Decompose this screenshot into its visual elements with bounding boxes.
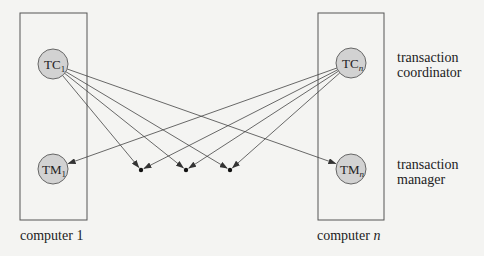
node-tmn-sub: n — [360, 169, 365, 179]
node-tm1: TM1 — [38, 154, 68, 184]
site-dot-site-a — [139, 168, 143, 172]
transaction-manager-label: transaction manager — [397, 157, 458, 187]
node-tcn-main: TC — [342, 56, 359, 71]
manager-label-line1: transaction — [397, 157, 458, 172]
site-dot-site-b — [184, 168, 188, 172]
computer-n-label: computer n — [317, 228, 380, 244]
transaction-system-diagram: TC1 TM1 TCn TMn — [0, 0, 484, 256]
node-tc1-main: TC — [44, 57, 61, 72]
coordinator-label-line1: transaction — [397, 50, 462, 65]
edge-tc1-to-site-b — [65, 73, 184, 168]
computer-1-label-prefix: computer — [20, 228, 76, 243]
node-tm1-sub: 1 — [62, 169, 67, 179]
transaction-coordinator-label: transaction coordinator — [397, 50, 462, 80]
edge-tc1-to-site-c — [66, 72, 227, 169]
node-tc1: TC1 — [38, 49, 68, 79]
node-tcn-sub: n — [359, 63, 364, 73]
node-tm1-main: TM — [42, 162, 62, 177]
node-tmn: TMn — [336, 154, 366, 184]
computer-1-label-suffix: 1 — [76, 228, 83, 243]
computer-n-label-suffix: n — [373, 228, 380, 243]
computer-n-label-prefix: computer — [317, 228, 373, 243]
edge-tcn-to-tm1 — [68, 68, 337, 164]
computer-1-box — [20, 13, 87, 220]
coordinator-label-line2: coordinator — [397, 65, 462, 80]
computer-n-box — [318, 13, 384, 220]
edge-tcn-to-site-c — [232, 73, 339, 168]
manager-label-line2: manager — [397, 172, 458, 187]
edges-group — [63, 68, 340, 169]
node-tc1-sub: 1 — [61, 64, 66, 74]
node-tcn: TCn — [336, 48, 366, 78]
node-tmn-main: TM — [340, 162, 360, 177]
site-dot-site-c — [228, 168, 232, 172]
edge-tc1-to-site-a — [63, 76, 139, 168]
computer-1-label: computer 1 — [20, 228, 83, 244]
intermediate-sites — [139, 168, 232, 172]
